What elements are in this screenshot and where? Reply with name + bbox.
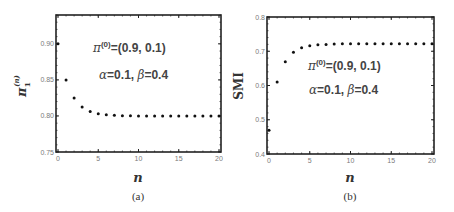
x-tick-label: 15 (387, 157, 395, 164)
data-point (292, 51, 295, 54)
data-point (357, 42, 360, 45)
y-tick-label: 0.8 (255, 14, 265, 21)
x-axis-a: 05101520 (56, 15, 223, 162)
svg-text:π1(n): π1(n) (12, 75, 32, 98)
svg-text:SMI: SMI (232, 72, 246, 100)
data-point (325, 43, 328, 46)
data-point (422, 42, 425, 45)
chart-panel-a: 0.750.800.850.90 05101520 π(0)=(0.9, 0.1… (12, 15, 223, 203)
y-axis-a: 0.750.800.850.90 (40, 15, 221, 156)
chart-panel-b: 0.40.50.60.70.8 05101520 π(0)=(0.9, 0.1)… (232, 14, 436, 204)
caption-b: (b) (344, 190, 357, 203)
x-tick-label: 20 (215, 155, 223, 162)
x-tick-label: 5 (308, 157, 312, 164)
y-tick-label: 0.85 (40, 76, 54, 83)
data-point (185, 114, 188, 117)
data-point (137, 114, 140, 117)
data-point (349, 42, 352, 45)
data-point (341, 42, 344, 45)
x-tick-label: 10 (347, 157, 355, 164)
data-point (398, 42, 401, 45)
data-point (373, 42, 376, 45)
data-point (414, 42, 417, 45)
data-point (201, 114, 204, 117)
data-point (300, 46, 303, 49)
data-point (81, 105, 84, 108)
data-point (308, 44, 311, 47)
data-point (406, 42, 409, 45)
data-point (193, 114, 196, 117)
data-point (105, 113, 108, 116)
x-tick-label: 5 (96, 155, 100, 162)
y-tick-label: 0.90 (40, 40, 54, 47)
data-point (129, 114, 132, 117)
data-point (65, 78, 68, 81)
data-point (365, 42, 368, 45)
data-point (218, 114, 221, 117)
x-axis-title-a: n (133, 170, 142, 185)
data-point (121, 114, 124, 117)
y-axis-title-a: π1(n) (12, 75, 32, 98)
data-point (169, 114, 172, 117)
data-point (209, 114, 212, 117)
plot-frame-a (56, 15, 221, 152)
y-tick-label: 0.80 (40, 112, 54, 119)
data-point (113, 114, 116, 117)
x-tick-label: 0 (56, 155, 60, 162)
x-tick-label: 20 (428, 157, 436, 164)
annotation-initial-b: π(0)=(0.9, 0.1) (307, 58, 381, 73)
data-point (89, 110, 92, 113)
data-point (73, 96, 76, 99)
data-point (57, 42, 60, 45)
data-point (268, 129, 271, 132)
y-tick-label: 0.75 (40, 149, 54, 156)
data-point (333, 43, 336, 46)
y-tick-label: 0.6 (255, 82, 265, 89)
x-tick-label: 15 (175, 155, 183, 162)
data-point (316, 43, 319, 46)
data-point (382, 42, 385, 45)
data-point (390, 42, 393, 45)
annotation-params-b: α=0.1, β=0.4 (309, 83, 378, 97)
data-point (153, 114, 156, 117)
data-point (284, 60, 287, 63)
data-point (145, 114, 148, 117)
y-axis-title-b: SMI (232, 72, 246, 100)
x-tick-label: 10 (135, 155, 143, 162)
annotation-params-a: α=0.1, β=0.4 (99, 68, 168, 82)
annotation-initial-a: π(0)=(0.9, 0.1) (92, 40, 166, 55)
y-tick-label: 0.7 (255, 48, 265, 55)
data-point (276, 81, 279, 84)
y-tick-label: 0.5 (255, 116, 265, 123)
caption-a: (a) (132, 190, 145, 203)
data-point (431, 42, 434, 45)
data-point (177, 114, 180, 117)
x-tick-label: 0 (267, 157, 271, 164)
data-point (97, 112, 100, 115)
data-point (161, 114, 164, 117)
y-tick-label: 0.4 (255, 151, 265, 158)
x-axis-title-b: n (345, 170, 354, 185)
